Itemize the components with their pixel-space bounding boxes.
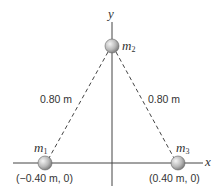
mass-m2-ball bbox=[105, 39, 119, 53]
mass-subscript: 2 bbox=[131, 45, 135, 54]
y-axis-label: y bbox=[108, 6, 114, 22]
mass-m1-ball bbox=[38, 156, 52, 170]
mass-subscript: 3 bbox=[185, 147, 189, 156]
mass-m3-label: m3 bbox=[176, 140, 189, 156]
mass-m1-label: m1 bbox=[34, 140, 47, 156]
mass-name: m bbox=[34, 140, 43, 155]
diagram-canvas bbox=[0, 0, 224, 193]
distance-left-label: 0.80 m bbox=[40, 93, 72, 105]
mass-subscript: 1 bbox=[43, 147, 47, 156]
mass-name: m bbox=[176, 140, 185, 155]
mass-m3-coordinate: (0.40 m, 0) bbox=[149, 172, 200, 184]
x-axis-label: x bbox=[205, 154, 211, 170]
mass-m2-label: m2 bbox=[122, 38, 135, 54]
mass-m3-ball bbox=[171, 156, 185, 170]
distance-right-label: 0.80 m bbox=[148, 93, 180, 105]
dashed-line-left bbox=[49, 52, 108, 158]
dashed-line-right bbox=[116, 52, 174, 158]
mass-name: m bbox=[122, 38, 131, 53]
mass-m1-coordinate: (−0.40 m, 0) bbox=[16, 172, 73, 184]
